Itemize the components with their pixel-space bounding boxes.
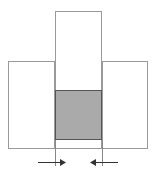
arrow-pointing-right bbox=[38, 159, 66, 166]
shaded-block-rectangle bbox=[56, 91, 102, 140]
diagram-canvas bbox=[0, 0, 156, 172]
arrow-left-head bbox=[90, 159, 96, 166]
left-block-rectangle bbox=[9, 62, 55, 149]
technical-diagram-figure bbox=[0, 0, 156, 172]
right-block-rectangle bbox=[103, 62, 148, 149]
arrow-right-head bbox=[60, 159, 66, 166]
arrow-pointing-left bbox=[90, 159, 118, 166]
